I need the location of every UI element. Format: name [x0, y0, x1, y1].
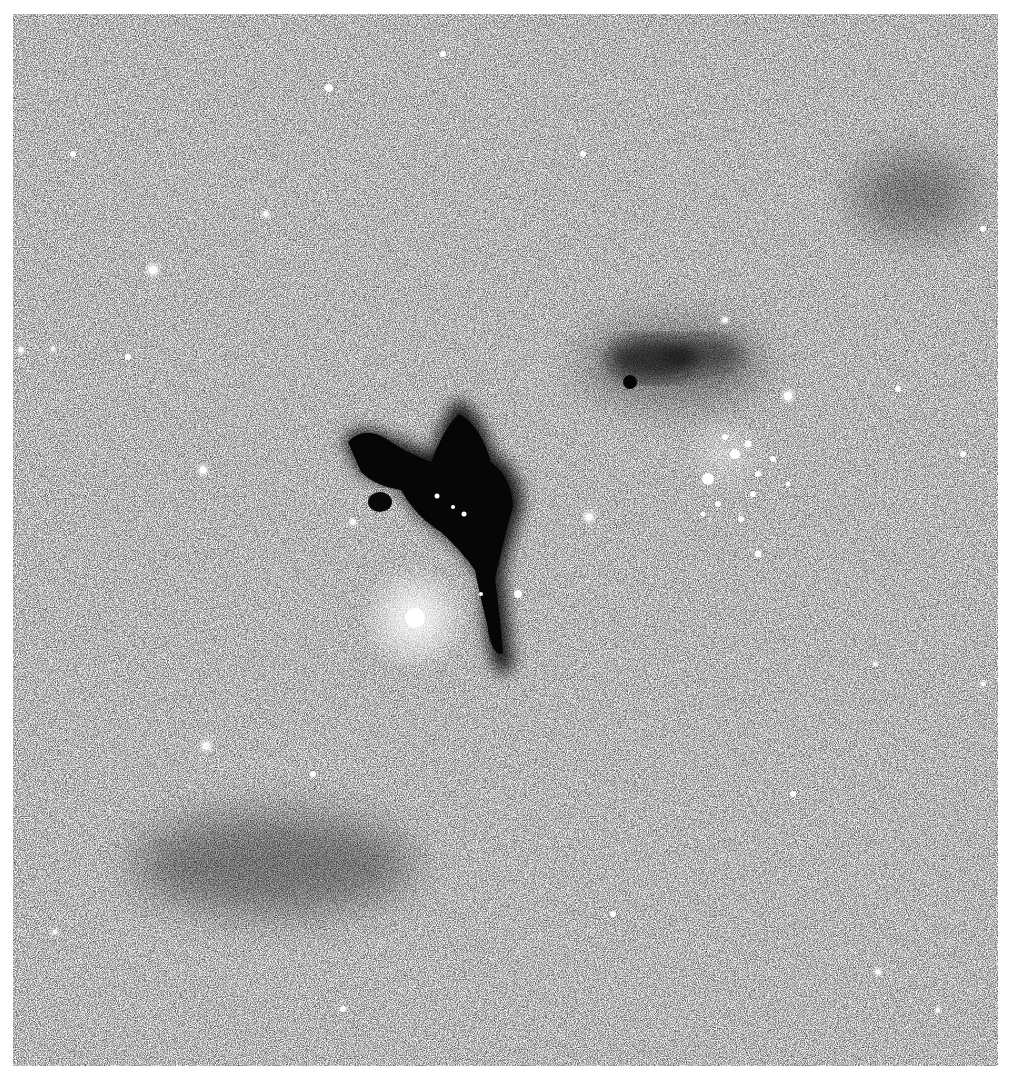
star-field-canvas — [13, 14, 998, 1066]
bright-star — [405, 608, 425, 628]
dark-globule — [623, 375, 637, 389]
star-field-image — [13, 14, 998, 1066]
